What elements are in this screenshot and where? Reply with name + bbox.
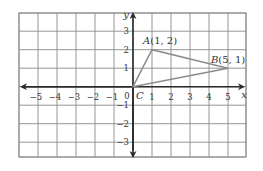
y-tick-label: −2 bbox=[116, 119, 129, 129]
y-tick-label: 1 bbox=[124, 63, 129, 73]
point-label-a: A(1, 2) bbox=[142, 35, 177, 46]
x-tick-label: 4 bbox=[206, 92, 211, 102]
y-tick-label: −1 bbox=[116, 100, 129, 110]
x-tick-label: −2 bbox=[87, 92, 100, 102]
x-tick-label: 3 bbox=[187, 92, 192, 102]
x-axis-label: x bbox=[241, 89, 247, 100]
labels: −5−4−3−2−112345321−1−2−30xyA(1, 2)B(5, 1… bbox=[30, 9, 247, 147]
x-tick-label: 1 bbox=[149, 92, 154, 102]
x-tick-label: −4 bbox=[49, 92, 62, 102]
x-tick-label: −5 bbox=[30, 92, 43, 102]
coordinate-plane: −5−4−3−2−112345321−1−2−30xyA(1, 2)B(5, 1… bbox=[0, 0, 263, 171]
origin-label: 0 bbox=[124, 91, 129, 101]
point-label-c: C bbox=[136, 90, 144, 101]
point-label-b: B(5, 1) bbox=[210, 54, 245, 65]
y-tick-label: −3 bbox=[116, 137, 129, 147]
y-tick-label: 3 bbox=[124, 26, 129, 36]
x-tick-label: 5 bbox=[225, 92, 230, 102]
x-tick-label: −3 bbox=[68, 92, 81, 102]
x-tick-label: 2 bbox=[168, 92, 173, 102]
y-axis-label: y bbox=[122, 9, 129, 20]
y-tick-label: 2 bbox=[124, 45, 129, 55]
axes bbox=[22, 14, 243, 156]
